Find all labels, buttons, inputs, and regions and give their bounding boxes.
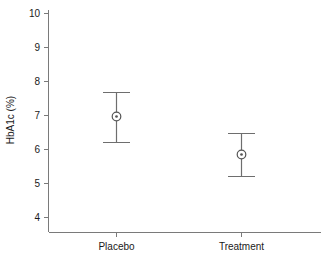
- chart-figure: 10 9 8 7 6 5 4 HbA1c (%) Placebo Treatme…: [0, 0, 326, 261]
- y-tick-label-7: 7: [34, 110, 40, 121]
- y-tick-label-10: 10: [29, 8, 41, 19]
- y-tick-label-6: 6: [34, 144, 40, 155]
- error-bar-chart: 10 9 8 7 6 5 4 HbA1c (%) Placebo Treatme…: [0, 0, 326, 261]
- x-tick-label-treatment: Treatment: [219, 241, 264, 252]
- y-tick-label-5: 5: [34, 178, 40, 189]
- y-tick-label-9: 9: [34, 42, 40, 53]
- x-tick-label-placebo: Placebo: [98, 241, 135, 252]
- y-tick-label-4: 4: [34, 212, 40, 223]
- data-point-center-treatment: [240, 153, 243, 156]
- y-axis-title: HbA1c (%): [5, 96, 16, 144]
- data-point-center-placebo: [115, 115, 118, 118]
- y-tick-label-8: 8: [34, 76, 40, 87]
